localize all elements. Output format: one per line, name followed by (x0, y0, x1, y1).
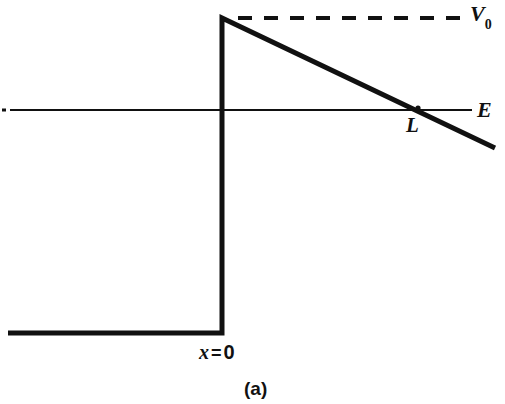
origin-equals: = (209, 343, 224, 363)
v0-subscript: 0 (485, 17, 492, 32)
energy-label: E (477, 99, 492, 121)
figure-background (0, 0, 505, 404)
v0-symbol: V (470, 1, 485, 26)
potential-barrier-diagram (0, 0, 505, 404)
origin-variable: x (199, 341, 209, 363)
origin-label: x=0 (199, 342, 235, 362)
turning-point-marker (415, 105, 420, 110)
figure-caption: (a) (244, 379, 267, 398)
v0-label: V0 (470, 3, 492, 29)
origin-value: 0 (224, 341, 235, 363)
turning-point-label: L (406, 115, 419, 136)
